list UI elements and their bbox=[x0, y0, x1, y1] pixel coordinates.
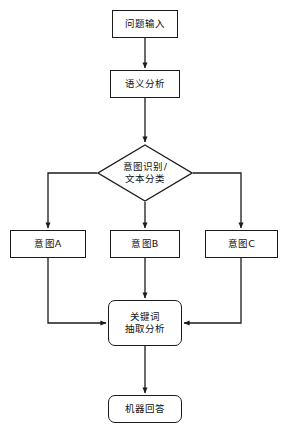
edge-intent-decision-to-intent-c bbox=[193, 173, 241, 228]
node-intent-c-label: 意图C bbox=[206, 238, 277, 250]
node-intent-decision[interactable]: 意图识别/ 文本分类 bbox=[97, 144, 193, 202]
node-intent-a[interactable]: 意图A bbox=[10, 230, 86, 258]
edge-intent-a-to-keyword-extraction bbox=[48, 258, 106, 323]
node-intent-a-label: 意图A bbox=[11, 238, 85, 250]
node-keyword-extraction[interactable]: 关键词 抽取分析 bbox=[108, 300, 182, 346]
node-question-input[interactable]: 问题输入 bbox=[112, 10, 178, 38]
node-machine-answer-label: 机器回答 bbox=[109, 403, 181, 415]
node-keyword-extraction-label: 关键词 抽取分析 bbox=[109, 311, 181, 335]
edge-intent-c-to-keyword-extraction bbox=[184, 258, 241, 323]
node-intent-b[interactable]: 意图B bbox=[110, 230, 180, 258]
flowchart-canvas: 问题输入 语义分析 意图识别/ 文本分类 意图A 意图B 意图C 关键词 抽取分… bbox=[0, 0, 286, 430]
edge-intent-decision-to-intent-a bbox=[48, 173, 97, 228]
node-intent-b-label: 意图B bbox=[111, 238, 179, 250]
connector-layer bbox=[0, 0, 286, 430]
node-machine-answer[interactable]: 机器回答 bbox=[108, 395, 182, 423]
node-keyword-extraction-label-line2: 抽取分析 bbox=[125, 323, 166, 334]
node-intent-decision-label-line1: 意图识别/ bbox=[123, 161, 167, 173]
node-semantic-analysis-label: 语义分析 bbox=[111, 78, 179, 90]
node-intent-decision-label: 意图识别/ 文本分类 bbox=[97, 144, 193, 202]
node-keyword-extraction-label-line1: 关键词 bbox=[130, 311, 161, 322]
node-intent-c[interactable]: 意图C bbox=[205, 230, 278, 258]
node-question-input-label: 问题输入 bbox=[113, 18, 177, 30]
node-semantic-analysis[interactable]: 语义分析 bbox=[110, 70, 180, 98]
node-intent-decision-label-line2: 文本分类 bbox=[125, 173, 166, 185]
